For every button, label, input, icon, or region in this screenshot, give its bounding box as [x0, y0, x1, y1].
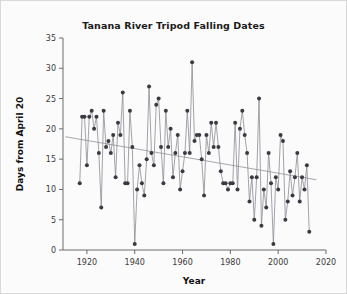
data-point: [133, 242, 137, 246]
data-point: [164, 109, 168, 113]
data-point: [291, 193, 295, 197]
data-point: [78, 181, 82, 185]
data-point: [233, 121, 237, 125]
data-point: [293, 175, 297, 179]
data-point: [121, 91, 125, 95]
data-point: [259, 224, 263, 228]
data-point: [145, 157, 149, 161]
data-point: [138, 163, 142, 167]
data-point: [281, 139, 285, 143]
data-point: [255, 175, 259, 179]
y-axis-ticks: 05101520253035: [46, 34, 63, 255]
data-point: [87, 115, 91, 119]
data-point: [140, 181, 144, 185]
data-point: [267, 151, 271, 155]
data-point: [99, 206, 103, 210]
data-point: [236, 187, 240, 191]
data-point: [271, 242, 275, 246]
data-point: [216, 145, 220, 149]
data-point: [212, 145, 216, 149]
data-point: [286, 200, 290, 204]
data-point: [298, 200, 302, 204]
data-point: [90, 109, 94, 113]
x-axis-title: Year: [182, 276, 206, 286]
data-point: [188, 151, 192, 155]
x-tick-label: 2000: [268, 258, 288, 267]
data-point: [166, 145, 170, 149]
data-point: [147, 84, 151, 88]
y-tick-label: 30: [46, 64, 56, 73]
x-tick-label: 1920: [77, 258, 97, 267]
data-point: [288, 169, 292, 173]
x-axis-ticks: 192019401960198020002020: [77, 250, 336, 267]
data-point: [264, 206, 268, 210]
data-point: [114, 175, 118, 179]
chart-figure: Tanana River Tripod Falling Dates 051015…: [0, 0, 347, 294]
chart-plot-area: 05101520253035 192019401960198020002020 …: [1, 1, 347, 294]
data-point: [250, 175, 254, 179]
data-point: [279, 133, 283, 137]
data-point: [300, 175, 304, 179]
x-tick-label: 1960: [172, 258, 192, 267]
data-point: [135, 187, 139, 191]
data-series-points: [78, 60, 312, 246]
data-point: [161, 181, 165, 185]
data-point: [207, 151, 211, 155]
data-point: [245, 151, 249, 155]
data-point: [204, 133, 208, 137]
y-tick-label: 20: [46, 125, 56, 134]
data-point: [149, 151, 153, 155]
data-point: [238, 127, 242, 131]
data-point: [128, 109, 132, 113]
data-point: [214, 121, 218, 125]
data-point: [262, 187, 266, 191]
data-point: [116, 121, 120, 125]
data-point: [111, 133, 115, 137]
data-point: [171, 175, 175, 179]
data-point: [240, 109, 244, 113]
data-point: [269, 181, 273, 185]
data-point: [219, 169, 223, 173]
x-tick-label: 2020: [316, 258, 336, 267]
data-point: [305, 163, 309, 167]
data-point: [130, 145, 134, 149]
data-point: [169, 127, 173, 131]
y-tick-label: 25: [46, 95, 56, 104]
data-point: [252, 218, 256, 222]
data-point: [97, 151, 101, 155]
data-point: [243, 133, 247, 137]
data-point: [276, 187, 280, 191]
data-point: [152, 163, 156, 167]
data-point: [118, 133, 122, 137]
data-point: [209, 121, 213, 125]
y-tick-label: 10: [46, 185, 56, 194]
data-point: [200, 157, 204, 161]
data-point: [190, 60, 194, 64]
data-point: [109, 151, 113, 155]
data-point: [302, 187, 306, 191]
data-point: [104, 145, 108, 149]
x-tick-label: 1940: [125, 258, 145, 267]
data-point: [202, 193, 206, 197]
data-point: [283, 218, 287, 222]
data-point: [224, 181, 228, 185]
data-point: [183, 151, 187, 155]
y-tick-label: 5: [51, 216, 56, 225]
y-tick-label: 0: [51, 246, 56, 255]
data-point: [85, 163, 89, 167]
data-point: [92, 127, 96, 131]
data-point: [126, 181, 130, 185]
data-point: [106, 139, 110, 143]
data-point: [193, 139, 197, 143]
y-axis-title: Days from April 20: [15, 97, 25, 191]
data-point: [247, 200, 251, 204]
data-point: [94, 115, 98, 119]
data-point: [295, 151, 299, 155]
data-point: [307, 230, 311, 234]
x-tick-label: 1980: [220, 258, 240, 267]
data-point: [157, 97, 161, 101]
data-point: [178, 187, 182, 191]
y-tick-label: 35: [46, 34, 56, 43]
data-point: [159, 145, 163, 149]
data-point: [185, 109, 189, 113]
